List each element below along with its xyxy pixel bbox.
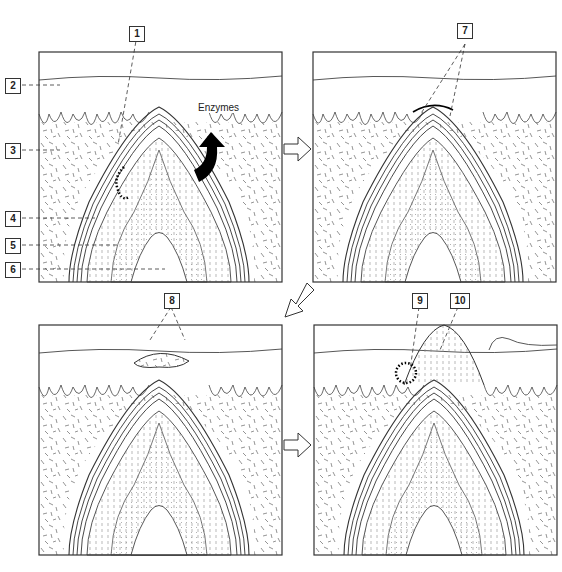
label-1: 1 (129, 26, 145, 42)
label-8: 8 (164, 293, 180, 309)
label-4: 4 (5, 211, 21, 227)
panel-4 (314, 325, 557, 555)
label-6: 6 (5, 262, 21, 278)
arrow-down-left (285, 283, 314, 317)
arrow-right-2 (284, 433, 311, 457)
label-7: 7 (457, 23, 473, 39)
label-2: 2 (5, 78, 21, 94)
label-10: 10 (450, 293, 470, 309)
label-9: 9 (412, 293, 428, 309)
label-5: 5 (5, 238, 21, 254)
diagram-canvas (0, 0, 562, 572)
arrow-right-1 (284, 137, 311, 161)
flow-arrows (284, 137, 314, 457)
enzymes-annotation: Enzymes (197, 102, 240, 113)
label-3: 3 (5, 143, 21, 159)
panel-2 (313, 52, 556, 282)
panel-3 (39, 325, 282, 555)
panel-1 (39, 52, 282, 282)
